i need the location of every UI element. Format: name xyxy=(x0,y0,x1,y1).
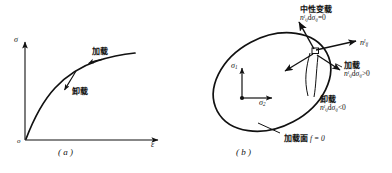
sigma2-sub: 2 xyxy=(263,101,266,107)
panel-b-caption: ( b ) xyxy=(236,148,251,157)
panel-b-tangent-point-marker xyxy=(312,48,319,54)
panel-a-loading-label: 加载 xyxy=(92,48,108,56)
panel-b-normal-vector-label: nlij xyxy=(360,39,368,48)
unloading-formula: nlijdσij<0 xyxy=(320,104,346,112)
nl-f-rel: =0 xyxy=(318,13,326,22)
panel-a-unloading-label: 卸载 xyxy=(72,88,88,96)
panel-b-sigma2-label: σ2 xyxy=(259,99,266,108)
panel-b-neutral-loading-arrow xyxy=(299,22,314,49)
panel-b-loading-annotation: 加载 nlijdσij>0 xyxy=(344,62,370,78)
yield-surface-title: 加载面 xyxy=(284,134,308,143)
panel-b-yield-surface-annotation: 加载面f = 0 xyxy=(284,128,325,145)
panel-b-sigma1-label: σ1 xyxy=(231,62,238,71)
panel-b-sigma-axes xyxy=(240,68,272,100)
neutral-loading-formula: nlijdσij=0 xyxy=(300,14,332,22)
panel-a-axes xyxy=(25,42,158,140)
yield-surface-formula: f = 0 xyxy=(310,134,325,143)
figure-root: σ ε o 加载 卸载 ( a ) σ1 σ2 nlij 中性变载 nlijdσ… xyxy=(0,0,392,173)
panel-b-neutral-loading-annotation: 中性变载 nlijdσij=0 xyxy=(300,6,332,22)
panel-a-origin-label: o xyxy=(17,138,21,145)
panel-a-loading-arrow xyxy=(89,59,103,63)
panel-b-unloading-leader xyxy=(306,53,318,97)
panel-a-caption: ( a ) xyxy=(58,148,73,157)
panel-a-y-axis-label: σ xyxy=(14,36,18,44)
panel-a-x-axis-label: ε xyxy=(151,141,154,149)
ld-f-rel: >0 xyxy=(362,69,370,78)
panel-b-unloading-annotation: 卸载 nlijdσij<0 xyxy=(320,96,346,112)
panel-b-loading-label-tick xyxy=(336,64,342,67)
ul-f-rel: <0 xyxy=(338,103,346,112)
loading-formula: nlijdσij>0 xyxy=(344,70,370,78)
normal-vector-sub: ij xyxy=(365,41,368,47)
panel-b-yield-surface-ellipse xyxy=(196,13,348,151)
sigma1-sub: 1 xyxy=(235,64,238,70)
